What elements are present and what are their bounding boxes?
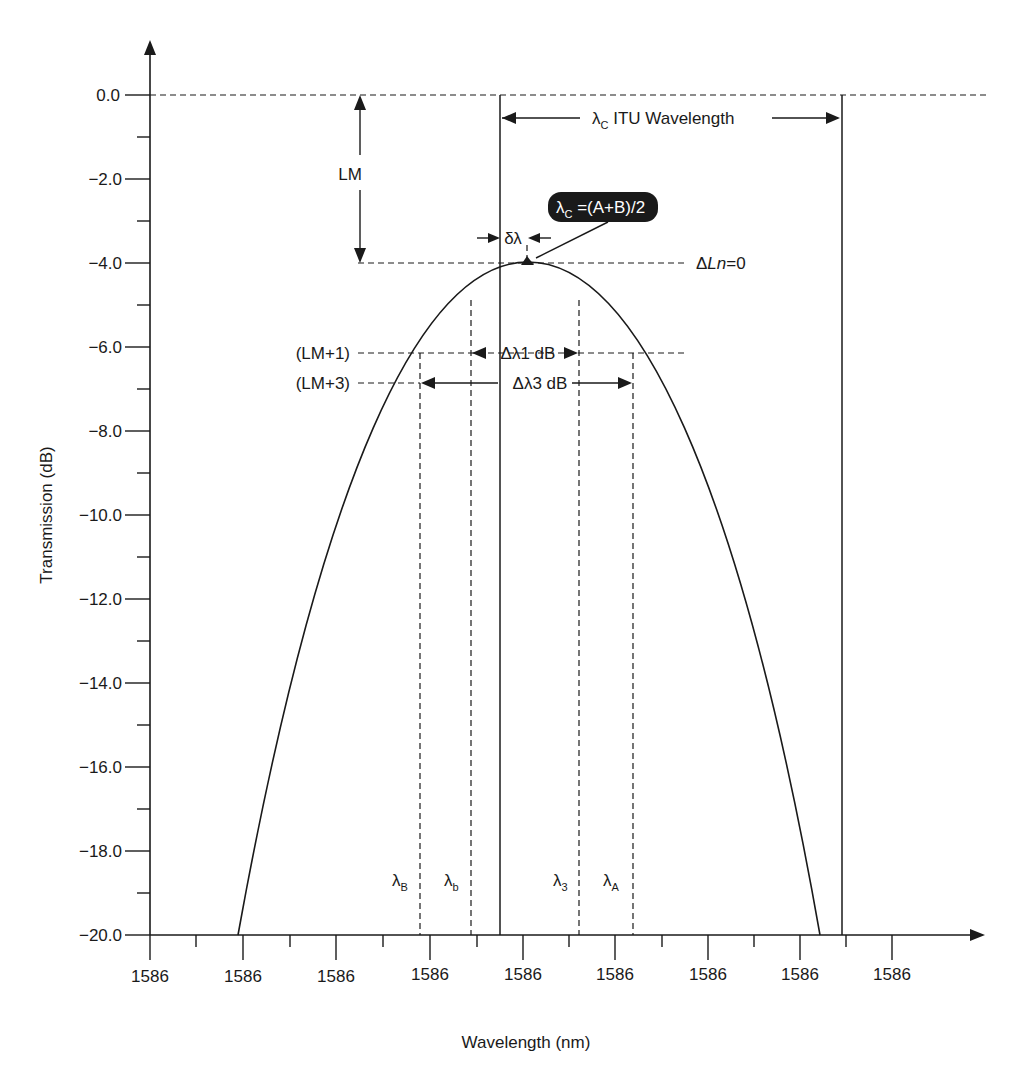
x-tick-label: 1586 bbox=[504, 965, 542, 984]
lm-label: LM bbox=[338, 165, 362, 184]
reference-lines bbox=[150, 95, 990, 383]
delta-ln-label: ΔLn=0 bbox=[696, 254, 746, 273]
bw-1db-label: Δλ1 dB bbox=[501, 344, 556, 363]
x-tick-label: 1586 bbox=[317, 967, 355, 986]
y-tick-label: −18.0 bbox=[79, 842, 122, 861]
x-major-ticks bbox=[150, 935, 892, 960]
x-tick-label: 1586 bbox=[411, 965, 449, 984]
lm-plus-3-label: (LM+3) bbox=[296, 374, 350, 393]
lambda-b-label: λb bbox=[444, 871, 459, 893]
y-axis-arrow-icon bbox=[144, 40, 156, 55]
x-tick-label: 1586 bbox=[224, 967, 262, 986]
bw-3db-label: Δλ3 dB bbox=[513, 374, 568, 393]
y-tick-label: −2.0 bbox=[88, 170, 122, 189]
x-tick-label: 1586 bbox=[873, 965, 911, 984]
y-tick-label: −10.0 bbox=[79, 506, 122, 525]
itu-channel-bounds bbox=[500, 95, 842, 935]
x-tick-label: 1586 bbox=[689, 965, 727, 984]
x-minor-ticks bbox=[196, 935, 846, 947]
lambda-B-label: λB bbox=[392, 871, 408, 893]
peak-marker-icon bbox=[521, 256, 534, 265]
lambda-A-label: λA bbox=[603, 871, 620, 893]
x-tick-label: 1586 bbox=[781, 965, 819, 984]
y-tick-labels: 0.0 −2.0 −4.0 −6.0 −8.0 −10.0 −12.0 −14.… bbox=[79, 86, 122, 945]
y-tick-label: −12.0 bbox=[79, 590, 122, 609]
y-axis-title: Transmission (dB) bbox=[37, 446, 56, 583]
y-tick-label: −16.0 bbox=[79, 758, 122, 777]
lm-plus-1-label: (LM+1) bbox=[296, 344, 350, 363]
x-tick-label: 1586 bbox=[596, 965, 634, 984]
x-tick-label: 1586 bbox=[131, 967, 169, 986]
lambda-3-label: λ3 bbox=[553, 871, 568, 893]
x-axis-arrow-icon bbox=[970, 929, 985, 941]
y-tick-label: −14.0 bbox=[79, 674, 122, 693]
y-tick-label: −8.0 bbox=[88, 422, 122, 441]
itu-wavelength-label: λC ITU Wavelength bbox=[592, 109, 734, 131]
transmission-chart: 0.0 −2.0 −4.0 −6.0 −8.0 −10.0 −12.0 −14.… bbox=[0, 0, 1018, 1071]
x-axis-title: Wavelength (nm) bbox=[462, 1033, 591, 1052]
callout-pointer bbox=[536, 222, 608, 258]
delta-lambda-label: δλ bbox=[504, 229, 522, 248]
y-tick-label: −6.0 bbox=[88, 338, 122, 357]
y-tick-label: 0.0 bbox=[96, 86, 120, 105]
y-tick-label: −4.0 bbox=[88, 254, 122, 273]
x-tick-labels: 1586 1586 1586 1586 1586 1586 1586 1586 … bbox=[131, 965, 911, 986]
y-tick-label: −20.0 bbox=[79, 926, 122, 945]
